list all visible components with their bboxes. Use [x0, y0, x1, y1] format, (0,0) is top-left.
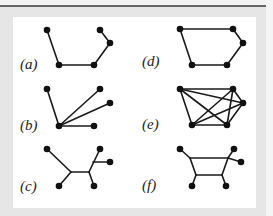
graph-figure	[0, 0, 273, 216]
graph-node-e	[189, 122, 196, 129]
graph-edge-d	[180, 29, 192, 65]
panel-label-b: (b)	[20, 118, 38, 133]
graph-node-e	[230, 86, 237, 93]
graph-node-b	[91, 123, 98, 130]
graph-edge-e	[192, 89, 233, 125]
graph-node-f	[189, 183, 196, 190]
graph-edge-c	[89, 149, 100, 172]
graph-edge-a	[47, 30, 59, 65]
graph-node-c	[91, 183, 98, 190]
graph-node-f	[223, 183, 230, 190]
graph-node-e	[240, 100, 247, 107]
graph-node-b	[97, 86, 104, 93]
graph-edge-d	[227, 43, 243, 65]
graph-node-e	[224, 122, 231, 129]
graph-edge-b	[59, 103, 110, 126]
graph-node-d	[240, 40, 247, 47]
graph-edge-c	[47, 149, 71, 172]
graph-node-a	[91, 62, 98, 69]
graph-edge-f	[222, 158, 228, 175]
graph-edge-b	[47, 89, 59, 126]
graph-node-b	[56, 123, 63, 130]
panel-label-f: (f)	[142, 178, 156, 193]
nodes-layer	[44, 26, 247, 190]
graph-node-a	[56, 62, 63, 69]
graph-node-f	[231, 146, 238, 153]
panel-label-a: (a)	[20, 57, 38, 72]
graph-edge-a	[94, 43, 110, 65]
graph-node-c	[44, 146, 51, 153]
graph-node-c	[107, 159, 114, 166]
graph-node-f	[177, 146, 184, 153]
graph-node-a	[44, 27, 51, 34]
graph-node-c	[97, 146, 104, 153]
panel-label-c: (c)	[20, 179, 37, 194]
graph-edge-b	[59, 89, 100, 126]
graph-node-c	[56, 183, 63, 190]
graph-node-d	[177, 26, 184, 33]
graph-node-a	[97, 27, 104, 34]
graph-node-e	[177, 86, 184, 93]
graph-node-d	[189, 62, 196, 69]
graph-node-f	[238, 159, 245, 166]
panel-label-e: (e)	[142, 117, 159, 132]
graph-node-b	[44, 86, 51, 93]
graph-node-d	[224, 62, 231, 69]
graph-node-d	[230, 26, 237, 33]
graph-node-b	[107, 100, 114, 107]
graph-edge-f	[190, 158, 196, 175]
panel-label-d: (d)	[142, 54, 160, 69]
graph-node-a	[107, 40, 114, 47]
